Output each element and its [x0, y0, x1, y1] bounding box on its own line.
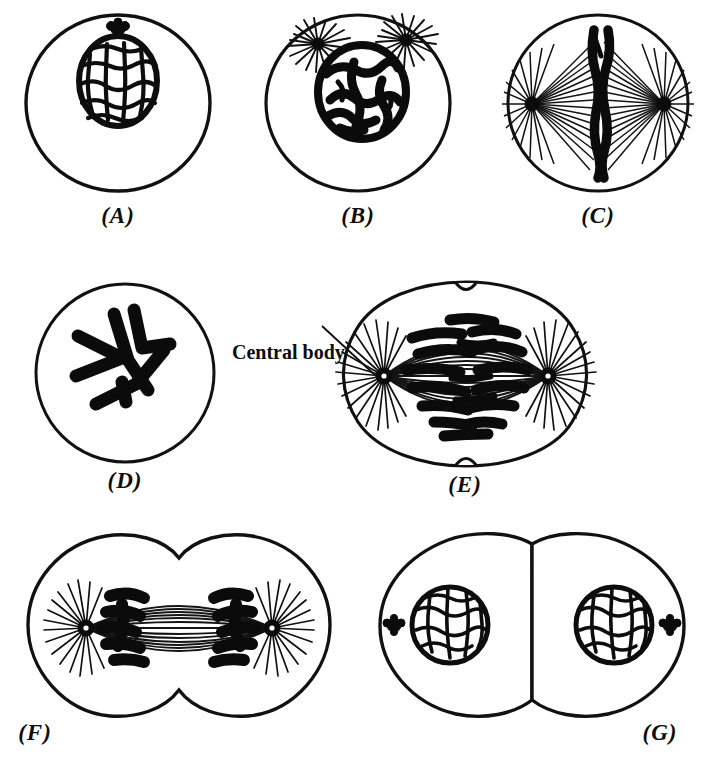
panel-g-label: (G) — [500, 720, 708, 746]
panel-b-label: (B) — [258, 203, 458, 229]
panel-e-anaphase: (E) — [300, 276, 630, 472]
panel-a-resting-cell: (A) — [18, 8, 218, 203]
mitosis-figure: (A) — [0, 0, 708, 777]
centrosome-right-icon — [657, 97, 671, 111]
panel-f-telophase: (F) — [14, 530, 344, 720]
panel-d-label: (D) — [30, 468, 220, 494]
centrosome-left-icon — [525, 97, 539, 111]
nucleus-spireme-icon — [318, 45, 406, 139]
daughter-nucleus-right-icon — [576, 587, 652, 663]
cell-membrane-icon — [36, 284, 214, 462]
panel-e-label: (E) — [300, 472, 630, 498]
nucleus-reticular-icon — [79, 36, 157, 126]
daughter-nucleus-left-icon — [412, 587, 488, 663]
panel-a-label: (A) — [18, 203, 218, 229]
panel-g-daughter-cells: (G) — [372, 530, 692, 720]
panel-c-metaphase: (C) — [498, 8, 698, 203]
panel-b-early-prophase: (B) — [258, 8, 458, 203]
panel-f-label: (F) — [0, 720, 200, 746]
central-body-annotation-label: Central body — [232, 341, 345, 364]
panel-c-label: (C) — [498, 203, 698, 229]
panel-d-polar-view: (D) — [30, 278, 220, 468]
